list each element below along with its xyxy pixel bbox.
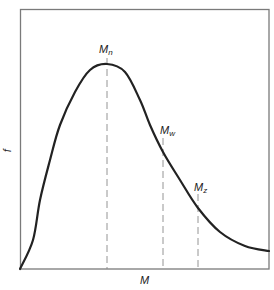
plot-frame <box>21 10 270 270</box>
y-axis-label: f <box>2 148 13 152</box>
x-axis-label: M <box>140 274 150 286</box>
mw-label: Mw <box>160 124 176 138</box>
distribution-chart: Mn Mw Mz M f <box>0 0 274 290</box>
distribution-curve <box>20 64 269 269</box>
mz-label: Mz <box>194 181 207 195</box>
mn-label: Mn <box>99 43 113 57</box>
marker-lines <box>107 58 198 269</box>
